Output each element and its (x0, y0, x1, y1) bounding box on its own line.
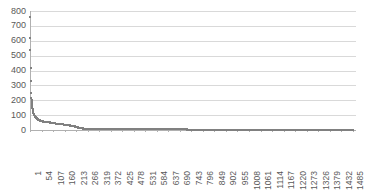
x-axis-tick-label: 796 (206, 171, 215, 185)
gridline (30, 56, 356, 57)
gridline (30, 41, 356, 42)
x-axis-tick-label: 1061 (264, 171, 273, 190)
x-axis-tick-label: 425 (126, 171, 135, 185)
data-point (29, 16, 31, 18)
x-axis-tick-label: 637 (172, 171, 181, 185)
y-axis-tick-label: 200 (0, 96, 26, 105)
x-axis-tick (65, 130, 66, 132)
x-axis-tick-label: 1273 (310, 171, 319, 190)
x-axis-tick-label: 955 (241, 171, 250, 185)
x-axis-tick (53, 130, 54, 132)
x-axis: 1541071602132663193724254785315846376907… (30, 131, 356, 173)
x-axis-tick (122, 130, 123, 132)
x-axis-tick-label: 902 (229, 171, 238, 185)
gridline (30, 85, 356, 86)
x-axis-tick-label: 160 (68, 171, 77, 185)
data-point (30, 80, 32, 82)
x-axis-tick-label: 1114 (276, 171, 285, 189)
x-axis-tick-label: 213 (80, 171, 89, 185)
x-axis-tick-label: 478 (137, 171, 146, 185)
data-point (352, 129, 354, 131)
gridline (30, 100, 356, 101)
x-axis-tick-label: 372 (114, 171, 123, 185)
gridline (30, 115, 356, 116)
x-axis-tick-label: 54 (45, 171, 54, 180)
x-axis-tick-label: 1167 (287, 171, 296, 189)
x-axis-tick-label: 1432 (345, 171, 354, 190)
x-axis-tick (111, 130, 112, 132)
y-axis-tick-label: 400 (0, 66, 26, 75)
gridline (30, 11, 356, 12)
x-axis-tick (134, 130, 135, 132)
y-axis-tick-label: 600 (0, 36, 26, 45)
x-axis-tick (42, 130, 43, 132)
x-axis-tick (88, 130, 89, 132)
y-axis-tick-label: 100 (0, 111, 26, 120)
y-axis-tick-label: 800 (0, 7, 26, 16)
data-point (29, 37, 31, 39)
x-axis-tick (76, 130, 77, 132)
x-axis-tick-label: 266 (91, 171, 100, 185)
x-axis-tick-label: 1220 (299, 171, 308, 190)
data-point (30, 67, 32, 69)
x-axis-tick-label: 1326 (322, 171, 331, 190)
y-axis: 8007006005004003002001000 (0, 0, 28, 173)
data-point (30, 92, 32, 94)
x-axis-tick-label: 319 (103, 171, 112, 185)
x-axis-tick (30, 130, 31, 132)
y-axis-tick-label: 0 (0, 126, 26, 135)
y-axis-tick-label: 700 (0, 21, 26, 30)
x-axis-tick-label: 1008 (253, 171, 262, 190)
gridline (30, 26, 356, 27)
gridline (30, 71, 356, 72)
x-axis-tick-label: 849 (218, 171, 227, 185)
y-axis-line (30, 11, 31, 131)
x-axis-tick-label: 690 (183, 171, 192, 185)
y-axis-tick-label: 300 (0, 81, 26, 90)
x-axis-tick-label: 1379 (333, 171, 342, 190)
plot-area (30, 11, 356, 130)
x-axis-tick-label: 1485 (356, 171, 365, 190)
x-axis-tick (99, 130, 100, 132)
y-axis-tick-label: 500 (0, 51, 26, 60)
x-axis-tick-label: 584 (160, 171, 169, 185)
x-axis-tick-label: 743 (195, 171, 204, 185)
data-point (29, 49, 31, 51)
x-axis-tick-label: 531 (149, 171, 158, 185)
x-axis-tick-label: 107 (57, 171, 66, 185)
x-axis-tick-label: 1 (34, 171, 43, 176)
